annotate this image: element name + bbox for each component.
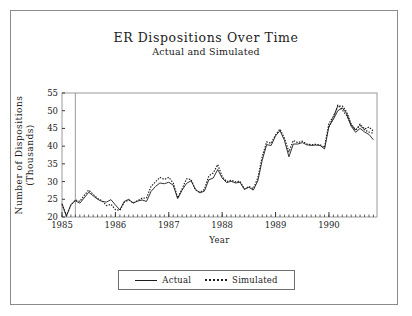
svg-text:1989: 1989 [265, 220, 287, 230]
y-axis-title-line1: Number of Dispositions [14, 96, 24, 215]
x-axis-tick-labels: 198519861987198819891990 [51, 220, 340, 230]
svg-text:1985: 1985 [51, 220, 73, 230]
plot-frame [62, 93, 377, 217]
chart-figure: ER Dispositions Over Time Actual and Sim… [0, 0, 412, 316]
svg-text:1986: 1986 [105, 220, 127, 230]
x-axis-title: Year [208, 235, 230, 245]
svg-text:25: 25 [47, 194, 58, 204]
legend-swatch-solid-icon [135, 280, 157, 281]
legend-swatch-dotted-icon [205, 279, 227, 281]
svg-text:40: 40 [47, 141, 58, 151]
x-axis-ticks [62, 212, 373, 217]
series-line-actual [62, 108, 373, 216]
svg-text:35: 35 [47, 159, 58, 169]
legend-item-actual: Actual [135, 275, 191, 285]
legend: Actual Simulated [118, 270, 295, 290]
svg-text:45: 45 [47, 123, 58, 133]
svg-text:1988: 1988 [211, 220, 233, 230]
plot-canvas: 2025303540455055 19851986198719881989199… [0, 0, 412, 316]
legend-label-simulated: Simulated [232, 275, 278, 285]
svg-text:1987: 1987 [158, 220, 180, 230]
svg-text:1990: 1990 [318, 220, 340, 230]
y-axis-title-line2: (Thousands) [25, 124, 35, 186]
y-axis-tick-labels: 2025303540455055 [47, 88, 58, 222]
legend-item-simulated: Simulated [205, 275, 278, 285]
svg-text:30: 30 [47, 177, 58, 187]
svg-text:50: 50 [47, 106, 58, 116]
series-line-simulated [62, 105, 373, 216]
legend-label-actual: Actual [162, 275, 191, 285]
svg-text:55: 55 [47, 88, 58, 98]
